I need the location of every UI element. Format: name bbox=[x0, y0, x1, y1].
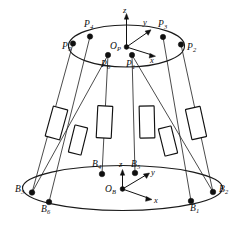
base-axis-y-line bbox=[123, 175, 147, 189]
base-axis-x-arrowhead bbox=[146, 197, 152, 202]
base-axis-z-arrowhead bbox=[120, 170, 124, 176]
label-p5: P5 bbox=[62, 42, 71, 52]
moving-platform-axes bbox=[124, 14, 155, 59]
label-b6: B6 bbox=[41, 205, 50, 215]
joint-node-b2 bbox=[210, 189, 216, 195]
base-axis-y-arrowhead bbox=[143, 173, 149, 178]
joint-node-p1 bbox=[129, 52, 134, 57]
label-b5: B5 bbox=[131, 160, 140, 170]
joint-node-p2 bbox=[178, 42, 183, 47]
joint-node-b6 bbox=[46, 199, 52, 205]
joint-node-p5 bbox=[70, 41, 75, 46]
leg-line-p1-b5 bbox=[132, 55, 135, 173]
label-b3: B3 bbox=[15, 185, 24, 195]
joint-node-origin-b bbox=[120, 187, 125, 192]
joint-node-b5 bbox=[132, 170, 138, 176]
label-b1: B1 bbox=[190, 204, 199, 214]
joint-node-b4 bbox=[99, 171, 105, 177]
label-origin-b: OB bbox=[105, 185, 116, 195]
label-p3: P3 bbox=[158, 20, 167, 30]
label-origin-p: OP bbox=[110, 42, 121, 52]
actuator-5 bbox=[158, 126, 177, 156]
label-moving-axis-z: z bbox=[123, 6, 126, 15]
actuator-4 bbox=[139, 106, 155, 138]
base-axis-x-line bbox=[123, 189, 149, 198]
label-moving-axis-x: x bbox=[150, 56, 154, 65]
stewart-platform-figure: P5 P4 P3 P2 P6 P1 OP z y x B3 B6 B4 B5 B… bbox=[0, 0, 250, 232]
actuator-3 bbox=[96, 106, 113, 139]
actuator-2 bbox=[68, 125, 87, 155]
label-base-axis-z: z bbox=[119, 160, 122, 169]
joint-node-p4 bbox=[87, 34, 92, 39]
moving-axis-y-line bbox=[127, 32, 149, 47]
label-p2: P2 bbox=[187, 43, 196, 53]
figure-canvas bbox=[0, 0, 250, 232]
label-p1: P1 bbox=[126, 60, 135, 70]
joint-node-p6 bbox=[105, 52, 110, 57]
joint-node-origin-p bbox=[124, 45, 129, 50]
label-base-axis-x: x bbox=[154, 196, 158, 205]
label-p4: P4 bbox=[84, 20, 93, 30]
label-b4: B4 bbox=[92, 160, 101, 170]
label-p6: P6 bbox=[101, 60, 110, 70]
label-moving-axis-y: y bbox=[143, 18, 147, 27]
label-base-axis-y: y bbox=[151, 168, 155, 177]
moving-axis-y-arrowhead bbox=[145, 30, 151, 36]
leg-line-p3-b1 bbox=[163, 37, 191, 201]
joint-node-b3 bbox=[29, 190, 35, 196]
label-b2: B2 bbox=[219, 185, 228, 195]
joint-node-p3 bbox=[160, 34, 165, 39]
actuator-6 bbox=[185, 106, 206, 139]
actuator-1 bbox=[45, 106, 68, 140]
